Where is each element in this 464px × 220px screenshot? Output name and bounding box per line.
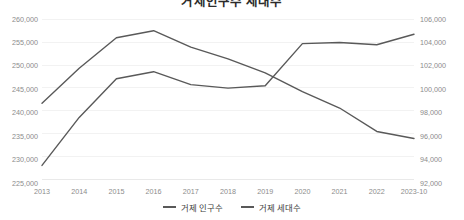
y-axis-left-tick-label: 235,000 [12,133,38,140]
x-axis-tick-label: 2016 [146,188,162,195]
legend-line-icon [163,206,176,208]
plot-area [42,19,414,183]
chart-legend: 거제 인구수 거제 세대수 [0,201,464,213]
legend-item-population[interactable]: 거제 인구수 [163,201,223,213]
x-axis-tick-label: 2017 [183,188,199,195]
y-axis-left-tick-label: 245,000 [12,86,38,93]
y-axis-left-tick-label: 255,000 [12,39,38,46]
line-chart: 거제인구수 세대수 225,000230,000235,000240,00024… [0,0,464,220]
series-line-population [42,31,414,139]
legend-item-label: 거제 인구수 [181,201,223,213]
y-axis-left-tick-label: 240,000 [12,109,38,116]
series-line-households [42,34,414,165]
y-axis-right-tick-label: 106,000 [420,16,446,23]
x-axis-tick-label: 2020 [294,188,310,195]
x-axis-tick-label: 2022 [369,188,385,195]
legend-item-label: 거제 세대수 [259,201,301,213]
y-axis-right-tick-label: 104,000 [420,39,446,46]
y-axis-left-tick-label: 230,000 [12,156,38,163]
x-axis-tick-label: 2014 [71,188,87,195]
y-axis-left-tick-label: 250,000 [12,62,38,69]
y-axis-left-tick-label: 260,000 [12,16,38,23]
legend-item-households[interactable]: 거제 세대수 [241,201,301,213]
chart-title: 거제인구수 세대수 [0,0,464,10]
x-axis-tick-label: 2013 [34,188,50,195]
x-axis-tick-label: 2023-10 [401,188,427,195]
x-axis-tick-label: 2021 [332,188,348,195]
x-axis-tick-label: 2015 [108,188,124,195]
y-axis-left-tick-label: 225,000 [12,180,38,187]
y-axis-right-tick-label: 96,000 [420,133,442,140]
legend-line-icon [241,206,254,208]
series-container [42,19,414,183]
y-axis-right-tick-label: 92,000 [420,180,442,187]
x-axis-tick-label: 2019 [257,188,273,195]
y-axis-right-tick-label: 102,000 [420,62,446,69]
x-axis-tick-label: 2018 [220,188,236,195]
y-axis-right-tick-label: 94,000 [420,156,442,163]
y-axis-right-tick-label: 98,000 [420,109,442,116]
y-axis-right-tick-label: 100,000 [420,86,446,93]
